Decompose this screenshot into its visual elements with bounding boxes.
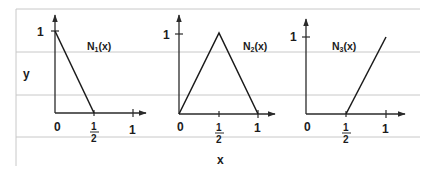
x-tick-label-half-den: 2 (343, 134, 349, 145)
x-tick-label-half-num: 1 (216, 122, 222, 133)
y-tick-label-1: 1 (37, 25, 44, 39)
x-tick-label-half-den: 2 (91, 133, 97, 144)
y-axis-label: y (23, 67, 30, 81)
panel-n3: 1 0 1 2 1 N3(x) (290, 19, 405, 145)
x-tick-label-half-den: 2 (216, 134, 222, 145)
shape-function-figure: y x 1 0 1 2 1 N1(x) (0, 0, 434, 175)
x-tick-label-1: 1 (254, 121, 261, 135)
y-tick-label-1: 1 (163, 28, 170, 42)
n3-label: N3(x) (332, 40, 356, 53)
x-tick-label-1: 1 (129, 123, 136, 137)
panel-n2: 1 0 1 2 1 N2(x) (163, 15, 275, 145)
chart-canvas: y x 1 0 1 2 1 N1(x) (0, 0, 434, 175)
x-tick-label-half-num: 1 (91, 121, 97, 132)
x-axis-label: x (217, 153, 224, 167)
n1-label: N1(x) (87, 40, 111, 53)
x-tick-label-1: 1 (382, 122, 389, 136)
x-tick-label-0: 0 (177, 120, 184, 134)
n2-label: N2(x) (243, 40, 267, 53)
x-tick-label-0: 0 (54, 120, 61, 134)
panel-n1: 1 0 1 2 1 N1(x) (37, 15, 146, 144)
y-tick-label-1: 1 (290, 30, 297, 44)
x-tick-label-0: 0 (304, 120, 311, 134)
x-tick-label-half-num: 1 (343, 122, 349, 133)
